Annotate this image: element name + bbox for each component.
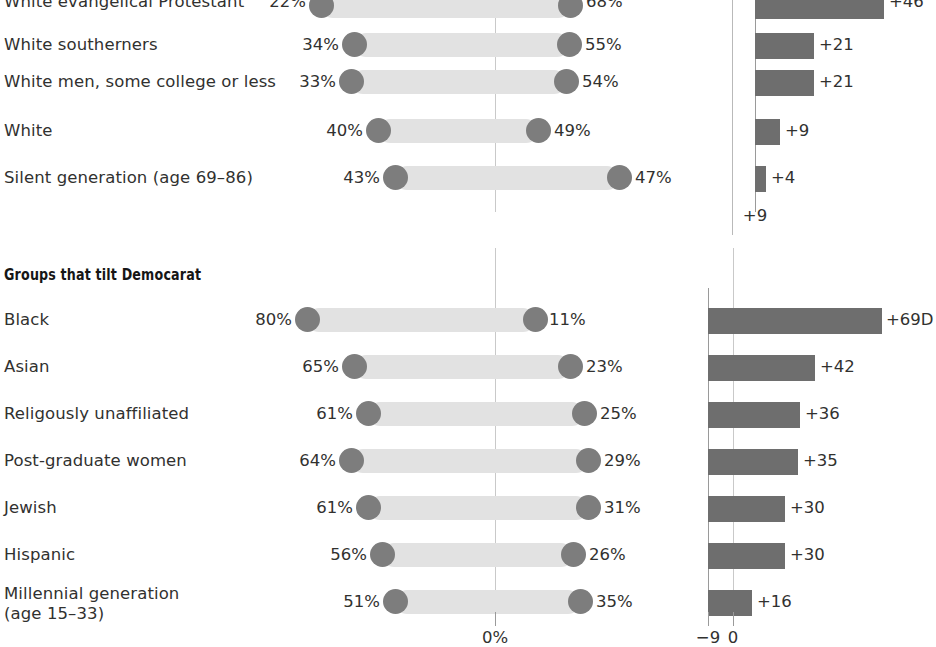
dem-value: 61% xyxy=(295,404,353,423)
gap-label: +9 xyxy=(785,121,809,140)
dumbbell-axis-label-zero: 0% xyxy=(465,628,525,647)
dumbbell-dot-dem xyxy=(383,165,408,190)
dumbbell-dot-rep xyxy=(557,32,582,57)
rep-value: 26% xyxy=(589,545,649,564)
rep-value: 29% xyxy=(604,451,664,470)
dumbbell-dot-dem xyxy=(339,448,364,473)
gap-label: +30 xyxy=(790,498,825,517)
gap-bar xyxy=(708,496,785,522)
rep-value: 54% xyxy=(582,72,642,91)
dumbbell-track xyxy=(382,543,573,567)
dumbbell-dot-rep xyxy=(554,69,579,94)
dumbbell-track xyxy=(351,449,588,473)
row-label: White evangelical Protestant xyxy=(4,0,244,12)
dumbbell-dot-rep xyxy=(576,448,601,473)
dem-value: 65% xyxy=(281,357,339,376)
dumbbell-dot-rep xyxy=(572,401,597,426)
dem-value: 80% xyxy=(234,310,292,329)
row-label: White men, some college or less xyxy=(4,72,276,92)
rep-value: 31% xyxy=(604,498,664,517)
dumbbell-track xyxy=(354,33,569,57)
dumbbell-dot-rep xyxy=(523,307,548,332)
row-label: Millennial generation (age 15–33) xyxy=(4,584,179,624)
dumbbell-track xyxy=(354,355,570,379)
gap-axis-label-top: +9 xyxy=(725,206,785,225)
dem-value: 22% xyxy=(248,0,306,11)
dumbbell-dot-dem xyxy=(366,118,391,143)
gap-bar xyxy=(755,0,884,19)
gap-label: +46 xyxy=(889,0,924,11)
dumbbell-track xyxy=(378,119,538,143)
rep-value: 55% xyxy=(585,35,645,54)
dem-value: 61% xyxy=(295,498,353,517)
row-label: Hispanic xyxy=(4,545,75,565)
dem-value: 40% xyxy=(305,121,363,140)
dumbbell-track xyxy=(368,496,588,520)
dem-value: 33% xyxy=(278,72,336,91)
dumbbell-zero-tick xyxy=(495,612,496,626)
dumbbell-track xyxy=(351,70,566,94)
dumbbell-dot-rep xyxy=(568,589,593,614)
gap-label: +42 xyxy=(820,357,855,376)
gap-bar xyxy=(708,543,785,569)
dem-value: 43% xyxy=(322,168,380,187)
dumbbell-dot-dem xyxy=(356,495,381,520)
row-label: Religously unaffiliated xyxy=(4,404,189,424)
dumbbell-dot-dem xyxy=(383,589,408,614)
row-label: Black xyxy=(4,310,49,330)
rep-value: 25% xyxy=(600,404,660,423)
gap-bar xyxy=(755,33,814,59)
rep-value: 49% xyxy=(554,121,614,140)
row-label: White xyxy=(4,121,52,141)
dumbbell-track xyxy=(368,402,584,426)
section-heading-democrat: Groups that tilt Democarat xyxy=(4,265,201,284)
gap-label: +69D xyxy=(886,310,934,329)
gap-label: +16 xyxy=(757,592,792,611)
rep-value: 35% xyxy=(596,592,656,611)
row-label: White southerners xyxy=(4,35,158,55)
gap-bar xyxy=(708,308,882,334)
dumbbell-dot-rep xyxy=(558,0,583,18)
gap-axis-label-zero: 0 xyxy=(703,628,763,647)
rep-value: 47% xyxy=(635,168,695,187)
gap-label: +4 xyxy=(771,168,795,187)
dem-value: 64% xyxy=(278,451,336,470)
gap-neg9-tick xyxy=(708,612,709,626)
row-label: Jewish xyxy=(4,498,57,518)
dumbbell-dot-dem xyxy=(339,69,364,94)
dem-value: 34% xyxy=(281,35,339,54)
dumbbell-dot-dem xyxy=(370,542,395,567)
dumbbell-dot-rep xyxy=(607,165,632,190)
gap-bar xyxy=(755,70,814,96)
gap-bar xyxy=(708,402,800,428)
row-label: Silent generation (age 69–86) xyxy=(4,168,253,188)
dumbbell-dot-dem xyxy=(356,401,381,426)
rep-value: 68% xyxy=(586,0,646,11)
gap-bar xyxy=(708,449,798,475)
rep-value: 11% xyxy=(549,310,609,329)
gap-label: +21 xyxy=(819,72,854,91)
gap-label: +30 xyxy=(790,545,825,564)
dumbbell-track xyxy=(307,308,535,332)
gap-bar xyxy=(708,590,752,616)
dumbbell-dot-rep xyxy=(526,118,551,143)
dumbbell-dot-rep xyxy=(561,542,586,567)
dumbbell-track xyxy=(395,590,580,614)
gap-bar xyxy=(755,119,780,145)
dumbbell-dot-rep xyxy=(576,495,601,520)
dumbbell-dot-dem xyxy=(342,354,367,379)
gap-zero-tick xyxy=(733,612,734,626)
dumbbell-track xyxy=(395,166,619,190)
dem-value: 51% xyxy=(322,592,380,611)
gap-label: +36 xyxy=(805,404,840,423)
dumbbell-dot-rep xyxy=(558,354,583,379)
gap-label: +21 xyxy=(819,35,854,54)
dumbbell-dot-dem xyxy=(342,32,367,57)
gap-bar xyxy=(755,166,766,192)
dumbbell-track xyxy=(321,0,570,18)
gap-bar xyxy=(708,355,815,381)
dumbbell-dot-dem xyxy=(295,307,320,332)
row-label: Asian xyxy=(4,357,50,377)
dem-value: 56% xyxy=(309,545,367,564)
